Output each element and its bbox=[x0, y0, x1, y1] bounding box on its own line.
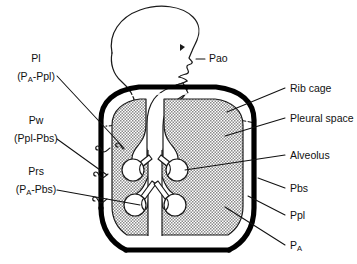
label-pw-name: Pw bbox=[29, 114, 44, 126]
label-pa: PA bbox=[290, 239, 303, 253]
label-prs-formula-prefix: (P bbox=[16, 183, 27, 195]
leader-pbs bbox=[258, 178, 285, 188]
label-pw-formula: (Ppl-Pbs) bbox=[14, 132, 58, 144]
label-pl-formula: (PA-Ppl) bbox=[17, 70, 55, 84]
label-pa-text: P bbox=[290, 239, 297, 251]
label-pbs: Pbs bbox=[290, 182, 308, 194]
label-prs-formula: (PA-Pbs) bbox=[16, 183, 57, 197]
label-rib-cage: Rib cage bbox=[290, 82, 332, 94]
label-pao: Pao bbox=[209, 52, 228, 64]
eye-marker bbox=[180, 44, 185, 51]
label-pa-subscript: A bbox=[297, 244, 303, 253]
label-pleural-space: Pleural space bbox=[290, 112, 354, 124]
leader-pl bbox=[57, 76, 124, 148]
label-pl-name: Pl bbox=[31, 52, 40, 64]
label-prs-formula-suffix: -Pbs) bbox=[31, 183, 56, 195]
respiratory-pressures-figure: Pao Pl (PA-Ppl) Pw (Ppl-Pbs) Prs (PA-Pbs… bbox=[0, 0, 357, 264]
label-alveolus: Alveolus bbox=[290, 149, 330, 161]
label-pl-formula-suffix: -Ppl) bbox=[33, 70, 55, 82]
label-prs-name: Prs bbox=[28, 165, 44, 177]
figure-canvas: Pao Pl (PA-Ppl) Pw (Ppl-Pbs) Prs (PA-Pbs… bbox=[0, 0, 357, 264]
label-pl-formula-prefix: (P bbox=[17, 70, 28, 82]
label-ppl: Ppl bbox=[290, 209, 305, 221]
